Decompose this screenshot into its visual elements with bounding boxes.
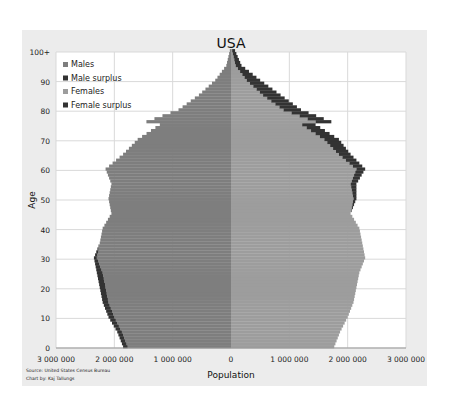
- female-bar: [231, 230, 360, 233]
- female-bar: [231, 268, 361, 271]
- female-bar: [231, 120, 316, 123]
- x-tick-label: 3 000 000: [387, 355, 425, 364]
- female-bar: [231, 126, 307, 129]
- female-bar: [231, 197, 354, 200]
- male-bar: [111, 182, 231, 185]
- female-bar: [231, 298, 354, 301]
- male-surplus-bar: [95, 253, 97, 256]
- female-bar: [231, 236, 361, 239]
- female-bar: [231, 259, 364, 262]
- male-bar: [110, 188, 231, 191]
- male-bar: [104, 224, 231, 227]
- male-bar: [99, 262, 231, 265]
- female-bar: [231, 315, 348, 318]
- male-surplus-bar: [96, 265, 101, 268]
- male-bar: [113, 162, 231, 165]
- y-tick-label: 90: [40, 78, 50, 87]
- female-surplus-bar: [235, 61, 240, 64]
- male-bar: [102, 233, 232, 236]
- x-tick-label: 1 000 000: [270, 355, 308, 364]
- y-tick-label: 0: [45, 344, 50, 353]
- male-bar: [106, 286, 231, 289]
- male-bar: [125, 339, 231, 342]
- female-surplus-bar: [302, 123, 315, 126]
- female-bar: [231, 200, 353, 203]
- male-bar: [183, 105, 231, 108]
- female-bar: [231, 274, 359, 277]
- female-bar: [231, 336, 338, 339]
- female-surplus-bar: [355, 170, 363, 173]
- male-bar: [123, 153, 231, 156]
- female-surplus-bar: [233, 52, 237, 55]
- male-bar: [104, 277, 231, 280]
- female-bar: [231, 165, 353, 168]
- male-surplus-bar: [99, 244, 100, 247]
- female-bar: [231, 304, 352, 307]
- female-surplus-bar: [308, 117, 324, 120]
- male-bar: [109, 176, 231, 179]
- female-surplus-bar: [260, 91, 277, 94]
- female-surplus-bar: [257, 88, 273, 91]
- male-bar: [110, 179, 231, 182]
- female-bar: [231, 221, 356, 224]
- female-bar: [231, 150, 336, 153]
- male-bar: [112, 310, 231, 313]
- female-bar: [231, 321, 345, 324]
- male-surplus-bar: [99, 283, 105, 286]
- male-bar: [127, 342, 231, 345]
- male-bar: [106, 221, 231, 224]
- male-bar: [215, 79, 231, 82]
- male-surplus-bar: [97, 247, 98, 250]
- female-bar: [231, 185, 351, 188]
- female-surplus-bar: [330, 144, 343, 147]
- female-surplus-bar: [267, 96, 285, 99]
- female-bar: [231, 191, 352, 194]
- male-bar: [114, 315, 231, 318]
- female-bar: [231, 132, 315, 135]
- female-surplus-bar: [354, 197, 357, 200]
- male-bar: [217, 76, 231, 79]
- female-bar: [231, 227, 359, 230]
- female-bar: [231, 76, 245, 79]
- female-bar: [231, 265, 362, 268]
- female-surplus-bar: [351, 182, 357, 185]
- female-bar: [231, 212, 351, 215]
- male-bar: [195, 96, 231, 99]
- female-surplus-bar: [333, 147, 346, 150]
- female-bar: [231, 247, 363, 250]
- male-surplus-bar: [100, 289, 106, 292]
- male-bar: [222, 70, 231, 73]
- female-bar: [231, 64, 236, 67]
- female-bar: [231, 70, 240, 73]
- female-surplus-bar: [352, 191, 356, 194]
- male-surplus-bar: [109, 315, 115, 318]
- male-bar: [226, 64, 231, 67]
- female-bar: [231, 289, 356, 292]
- male-bar: [110, 215, 231, 218]
- female-bar: [231, 239, 362, 242]
- female-bar: [231, 295, 355, 298]
- legend-swatch: [63, 89, 68, 94]
- female-surplus-bar: [353, 194, 357, 197]
- female-surplus-bar: [354, 173, 362, 176]
- male-bar: [120, 327, 231, 330]
- female-bar: [231, 250, 364, 253]
- male-surplus-bar: [114, 324, 119, 327]
- female-bar: [231, 99, 271, 102]
- female-surplus-bar: [271, 99, 289, 102]
- male-bar: [109, 301, 232, 304]
- female-surplus-bar: [236, 64, 242, 67]
- male-surplus-bar: [104, 304, 110, 307]
- female-bar: [231, 58, 234, 61]
- male-surplus-bar: [116, 327, 121, 330]
- male-bar: [146, 120, 231, 123]
- female-bar: [231, 330, 340, 333]
- male-bar: [106, 167, 231, 170]
- male-surplus-bar: [99, 280, 105, 283]
- chart-title: USA: [217, 35, 246, 51]
- male-bar: [142, 135, 231, 138]
- female-bar: [231, 114, 300, 117]
- x-tick-label: 1 000 000: [154, 355, 192, 364]
- female-surplus-bar: [253, 85, 268, 88]
- female-bar: [231, 135, 320, 138]
